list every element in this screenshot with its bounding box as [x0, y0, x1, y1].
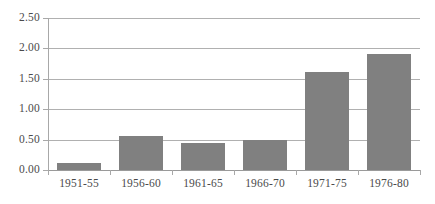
bar[interactable] — [305, 72, 349, 170]
y-axis-tick — [43, 109, 49, 110]
bar-slot — [358, 18, 420, 170]
bar-slot — [296, 18, 358, 170]
x-axis-tick-label: 1966-70 — [234, 178, 296, 190]
x-axis-tick — [420, 170, 421, 175]
y-axis-tick — [43, 79, 49, 80]
x-axis-tick-label: 1976-80 — [358, 178, 420, 190]
y-axis-tick-label: 0.00 — [0, 164, 40, 176]
y-axis-tick — [43, 48, 49, 49]
bar[interactable] — [243, 140, 287, 170]
y-axis-tick — [43, 140, 49, 141]
bar-slot — [234, 18, 296, 170]
bar-slot — [172, 18, 234, 170]
bar-chart: 0.000.501.001.502.002.50 1951-551956-601… — [0, 0, 435, 204]
y-axis-tick — [43, 18, 49, 19]
x-axis-tick-label: 1951-55 — [48, 178, 110, 190]
x-axis-tick-label: 1961-65 — [172, 178, 234, 190]
x-axis-tick — [48, 170, 49, 175]
y-axis-tick-label: 2.50 — [0, 12, 40, 24]
x-axis-tick-label: 1971-75 — [296, 178, 358, 190]
x-axis-tick — [358, 170, 359, 175]
y-axis-tick-label: 0.50 — [0, 134, 40, 146]
bar[interactable] — [181, 143, 225, 170]
x-axis-tick — [234, 170, 235, 175]
bar-slot — [110, 18, 172, 170]
y-axis-tick-label: 1.00 — [0, 103, 40, 115]
x-axis-tick — [110, 170, 111, 175]
bar-slot — [48, 18, 110, 170]
x-axis-tick — [172, 170, 173, 175]
bar[interactable] — [367, 54, 411, 170]
x-axis-tick-label: 1956-60 — [110, 178, 172, 190]
y-axis-tick-label: 2.00 — [0, 42, 40, 54]
y-axis-labels: 0.000.501.001.502.002.50 — [0, 0, 40, 204]
y-axis-tick-label: 1.50 — [0, 73, 40, 85]
plot-area — [48, 18, 420, 170]
x-axis-tick — [296, 170, 297, 175]
bar[interactable] — [119, 136, 163, 170]
bar[interactable] — [57, 163, 101, 170]
